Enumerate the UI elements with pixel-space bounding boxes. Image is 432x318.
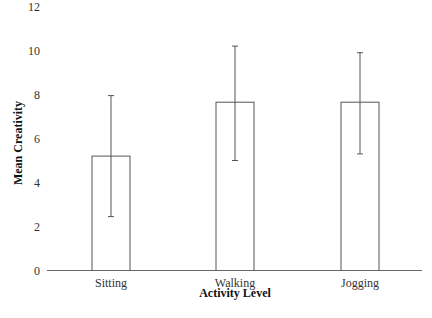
bars bbox=[92, 46, 379, 270]
y-axis-ticks: 024681012 bbox=[28, 0, 40, 278]
bar-group-walking bbox=[216, 46, 254, 270]
bar-chart: 024681012 SittingWalkingJogging Activity… bbox=[0, 0, 432, 318]
x-tick-label: Jogging bbox=[341, 276, 379, 290]
x-tick-label: Sitting bbox=[95, 276, 127, 290]
y-tick-label: 4 bbox=[34, 176, 40, 190]
y-tick-label: 2 bbox=[34, 220, 40, 234]
y-tick-label: 6 bbox=[34, 132, 40, 146]
y-tick-label: 12 bbox=[28, 0, 40, 14]
y-tick-label: 8 bbox=[34, 88, 40, 102]
y-tick-label: 0 bbox=[34, 264, 40, 278]
y-tick-label: 10 bbox=[28, 44, 40, 58]
y-axis-title: Mean Creativity bbox=[11, 101, 25, 185]
x-axis-title: Activity Level bbox=[199, 286, 271, 300]
bar-group-sitting bbox=[92, 96, 130, 271]
bar-group-jogging bbox=[341, 53, 379, 271]
